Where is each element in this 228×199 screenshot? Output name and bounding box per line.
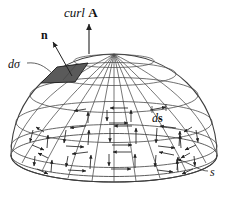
surface-element-label: dσ bbox=[8, 58, 20, 70]
dsigma-leader-line bbox=[27, 63, 52, 73]
dsigma-text: dσ bbox=[8, 57, 20, 71]
figure-canvas bbox=[0, 0, 228, 199]
normal-vector-label: n bbox=[41, 29, 48, 41]
boundary-s: s bbox=[210, 165, 215, 179]
surface-element-patch bbox=[41, 63, 88, 83]
circulation-cell bbox=[109, 152, 135, 169]
circulation-cell bbox=[66, 152, 91, 171]
stokes-theorem-figure: curl A n dσ ds s bbox=[0, 0, 228, 199]
boundary-curve-label: s bbox=[210, 166, 215, 178]
circulation-cell bbox=[107, 108, 131, 123]
ds-s: s bbox=[158, 111, 163, 125]
circulation-cell bbox=[64, 126, 89, 147]
vector-n: n bbox=[41, 28, 48, 42]
curl-a-label: curl A bbox=[64, 6, 98, 19]
circulation-cell bbox=[155, 152, 178, 172]
line-element-label: ds bbox=[152, 112, 163, 124]
curl-word: curl bbox=[64, 5, 85, 20]
vector-a: A bbox=[88, 5, 97, 20]
meridian-lines bbox=[12, 54, 216, 182]
